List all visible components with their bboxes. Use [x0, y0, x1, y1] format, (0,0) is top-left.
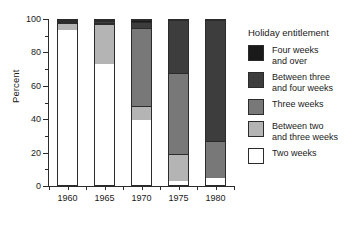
- x-tick: [179, 186, 180, 190]
- bar-segment[interactable]: [58, 23, 77, 30]
- x-tick: [216, 186, 217, 190]
- legend-item[interactable]: Three weeks: [248, 99, 358, 115]
- bar-column[interactable]: [168, 19, 189, 186]
- legend-item-label: Between two and three weeks: [272, 121, 338, 142]
- x-tick-boundary: [49, 186, 50, 190]
- y-tick-major: [43, 119, 48, 120]
- bar-segment[interactable]: [206, 20, 225, 141]
- bar-segment[interactable]: [206, 141, 225, 178]
- bar-segment[interactable]: [58, 30, 77, 185]
- y-tick-label: 0: [36, 182, 41, 191]
- legend-item-list: Four weeks and overBetween three and fou…: [248, 45, 358, 164]
- legend-item[interactable]: Two weeks: [248, 148, 358, 164]
- y-tick-major: [43, 153, 48, 154]
- bar-column[interactable]: [94, 19, 115, 186]
- bar-segment[interactable]: [169, 181, 188, 185]
- legend-swatch: [248, 72, 264, 88]
- x-tick: [68, 186, 69, 190]
- x-tick-boundary: [86, 186, 87, 190]
- x-tick: [105, 186, 106, 190]
- bar-column[interactable]: [57, 19, 78, 186]
- legend-item-label: Between three and four weeks: [272, 72, 333, 93]
- x-tick-label: 1980: [196, 193, 236, 203]
- x-tick: [142, 186, 143, 190]
- y-tick-major: [43, 186, 48, 187]
- bar-stack: [94, 19, 115, 186]
- y-tick-minor: [45, 169, 48, 170]
- bar-segment[interactable]: [169, 154, 188, 181]
- chart-figure: Percent 020406080100 1960196519701975198…: [0, 0, 361, 233]
- y-tick-minor: [45, 69, 48, 70]
- legend-item-label: Four weeks and over: [272, 45, 319, 66]
- y-tick-minor: [45, 136, 48, 137]
- bar-segment[interactable]: [132, 22, 151, 29]
- x-tick-label: 1965: [85, 193, 125, 203]
- legend-item-label: Two weeks: [272, 148, 317, 159]
- y-tick-major: [43, 86, 48, 87]
- legend-item[interactable]: Between three and four weeks: [248, 72, 358, 93]
- bar-group: [49, 19, 234, 186]
- x-tick-label: 1970: [122, 193, 162, 203]
- legend-swatch: [248, 99, 264, 115]
- y-tick-label: 20: [31, 149, 41, 158]
- x-tick-boundary: [197, 186, 198, 190]
- legend-title: Holiday entitlement: [248, 27, 358, 38]
- bar-column[interactable]: [205, 19, 226, 186]
- legend-swatch: [248, 121, 264, 137]
- bar-stack: [57, 19, 78, 186]
- y-tick-label: 80: [31, 48, 41, 57]
- legend-item-label: Three weeks: [272, 99, 324, 110]
- plot-area: 020406080100 19601965197019751980: [48, 19, 234, 187]
- legend-swatch: [248, 45, 264, 61]
- bar-segment[interactable]: [169, 20, 188, 73]
- bar-segment[interactable]: [132, 28, 151, 106]
- bar-segment[interactable]: [169, 73, 188, 154]
- bar-segment[interactable]: [206, 178, 225, 185]
- bar-stack: [168, 19, 189, 186]
- bar-segment[interactable]: [95, 24, 114, 64]
- y-tick-major: [43, 52, 48, 53]
- y-tick-minor: [45, 103, 48, 104]
- legend-item[interactable]: Between two and three weeks: [248, 121, 358, 142]
- x-tick-boundary: [123, 186, 124, 190]
- bar-stack: [205, 19, 226, 186]
- y-tick-label: 40: [31, 115, 41, 124]
- y-axis-title: Percent: [10, 70, 21, 103]
- bar-column[interactable]: [131, 19, 152, 186]
- x-tick-boundary: [160, 186, 161, 190]
- bar-stack: [131, 19, 152, 186]
- x-tick-label: 1960: [48, 193, 88, 203]
- y-tick-label: 60: [31, 82, 41, 91]
- x-tick-label: 1975: [159, 193, 199, 203]
- y-tick-major: [43, 19, 48, 20]
- bar-segment[interactable]: [132, 106, 151, 120]
- legend: Holiday entitlement Four weeks and overB…: [248, 27, 358, 170]
- legend-swatch: [248, 148, 264, 164]
- legend-item[interactable]: Four weeks and over: [248, 45, 358, 66]
- bar-segment[interactable]: [95, 64, 114, 185]
- bar-segment[interactable]: [132, 120, 151, 185]
- y-tick-label: 100: [26, 15, 41, 24]
- y-tick-minor: [45, 36, 48, 37]
- x-tick-boundary: [234, 186, 235, 190]
